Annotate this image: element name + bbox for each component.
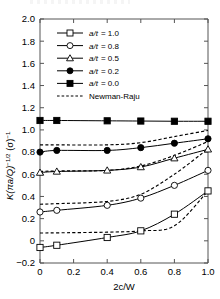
legend-label: a/t= 0.0 xyxy=(89,79,119,88)
y-tick-label: 0.8 xyxy=(22,146,35,157)
series-line xyxy=(40,120,208,121)
marker-open-triangle xyxy=(204,146,211,152)
marker-filled-circle xyxy=(67,68,73,74)
marker-filled-circle xyxy=(54,147,60,153)
series-line xyxy=(40,139,208,152)
series-line xyxy=(40,130,208,145)
marker-open-circle xyxy=(171,182,177,188)
x-tick-label: 0.4 xyxy=(101,266,114,277)
marker-open-square xyxy=(205,188,211,194)
y-tick-label: 2.0 xyxy=(22,13,35,24)
marker-open-square xyxy=(67,30,73,36)
x-tick-label: 0 xyxy=(37,266,42,277)
marker-open-square xyxy=(171,211,177,217)
y-tick-label: −0.2 xyxy=(16,257,35,268)
series-line xyxy=(40,191,208,233)
marker-open-circle xyxy=(37,209,43,215)
series-line xyxy=(40,170,208,212)
y-tick-label: 0.2 xyxy=(22,213,35,224)
x-tick-label: 0.2 xyxy=(67,266,80,277)
chart-plot: −0.200.20.40.60.81.01.21.41.61.82.0 00.2… xyxy=(0,0,220,299)
marker-open-circle xyxy=(104,202,110,208)
data-markers xyxy=(36,117,211,250)
marker-open-circle xyxy=(54,207,60,213)
data-curves xyxy=(40,120,208,247)
marker-filled-square xyxy=(205,118,211,124)
x-tick-label: 0.6 xyxy=(134,266,147,277)
legend-label: a/t= 0.2 xyxy=(89,67,119,76)
marker-filled-square xyxy=(138,118,144,124)
marker-filled-circle xyxy=(171,140,177,146)
y-tick-label: 1.0 xyxy=(22,124,35,135)
y-tick-label: 0.6 xyxy=(22,169,35,180)
marker-filled-square xyxy=(104,118,110,124)
marker-filled-circle xyxy=(138,145,144,151)
y-axis-title-mid: (σ) xyxy=(4,139,15,154)
marker-open-square xyxy=(54,242,60,248)
legend-label: a/t= 1.0 xyxy=(89,29,119,38)
y-tick-label: 0 xyxy=(30,235,35,246)
marker-filled-square xyxy=(54,117,60,123)
marker-open-circle xyxy=(205,167,211,173)
y-tick-label: 1.4 xyxy=(22,80,35,91)
legend-label: Newman-Raju xyxy=(89,92,140,101)
y-axis-title-exp1: −1/2 xyxy=(4,153,11,166)
y-axis: −0.200.20.40.60.81.01.21.41.61.82.0 xyxy=(16,13,208,268)
plot-frame xyxy=(40,19,208,263)
marker-open-square xyxy=(138,228,144,234)
marker-filled-square xyxy=(67,80,73,86)
marker-filled-square xyxy=(37,117,43,123)
legend-label: a/t= 0.8 xyxy=(89,42,119,51)
y-tick-label: 1.6 xyxy=(22,58,35,69)
marker-open-circle xyxy=(138,195,144,201)
marker-filled-circle xyxy=(104,147,110,153)
figure-container: −0.200.20.40.60.81.01.21.41.61.82.0 00.2… xyxy=(0,0,220,299)
x-tick-label: 0.8 xyxy=(168,266,181,277)
y-tick-label: 1.8 xyxy=(22,36,35,47)
x-tick-label: 1.0 xyxy=(201,266,214,277)
marker-open-square xyxy=(104,234,110,240)
series-line xyxy=(40,149,208,204)
marker-filled-circle xyxy=(205,136,211,142)
series-line xyxy=(40,142,208,172)
marker-open-square xyxy=(37,244,43,250)
marker-open-circle xyxy=(67,43,73,49)
y-tick-label: 0.4 xyxy=(22,191,35,202)
x-axis-title: 2c/W xyxy=(113,281,135,292)
svg-text:K(πa/Q)−1/2 (σ)−1: K(πa/Q)−1/2 (σ)−1 xyxy=(4,131,15,200)
y-axis-title-exp2: −1 xyxy=(4,131,11,139)
marker-filled-square xyxy=(171,118,177,124)
y-axis-title: K(πa/Q)−1/2 (σ)−1 xyxy=(4,131,15,200)
marker-filled-circle xyxy=(37,149,43,155)
y-tick-label: 1.2 xyxy=(22,102,35,113)
y-axis-title-main: K(πa/Q) xyxy=(4,166,15,200)
legend-label: a/t= 0.5 xyxy=(89,54,119,63)
legend: a/t= 1.0a/t= 0.8a/t= 0.5a/t= 0.2a/t= 0.0… xyxy=(57,29,140,101)
